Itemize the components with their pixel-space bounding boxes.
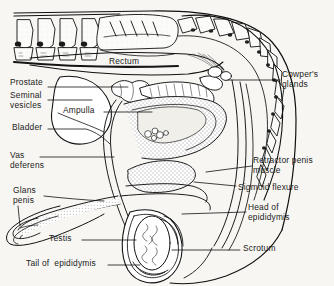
- anatomical-diagram-figure: Rectum Prostate Seminal vesicles Ampulla…: [0, 0, 334, 286]
- label-ampulla: Ampulla: [63, 106, 95, 116]
- label-glans-penis: Glans penis: [13, 186, 36, 205]
- leader-glans-penis-a: [44, 196, 104, 201]
- label-head-of-epididymis: Head of epididymis: [248, 203, 290, 222]
- label-tail-of-epididymis: Tail of epididymis: [26, 259, 96, 269]
- label-retractor-penis-muscle: Retractor penis muscle: [253, 156, 313, 175]
- label-testis: Testis: [49, 234, 72, 244]
- label-vas-deferens: Vas deferens: [10, 151, 44, 170]
- label-sigmoid-flexure: Sigmoid flexure: [238, 183, 299, 193]
- leader-sigmoid: [194, 182, 236, 186]
- label-cowpers-glands: Cowper's glands: [282, 70, 318, 89]
- body-contour-inner: [184, 248, 212, 278]
- label-rectum: Rectum: [109, 57, 139, 67]
- testis: [134, 216, 170, 270]
- sacrum: [97, 14, 178, 56]
- label-scrotum: Scrotum: [243, 244, 276, 254]
- body-outline-rear: [170, 230, 282, 284]
- label-seminal-vesicles: Seminal vesicles: [10, 91, 42, 110]
- label-prostate: Prostate: [10, 78, 43, 88]
- sigmoid-flexure: [120, 161, 210, 210]
- label-bladder: Bladder: [12, 123, 42, 133]
